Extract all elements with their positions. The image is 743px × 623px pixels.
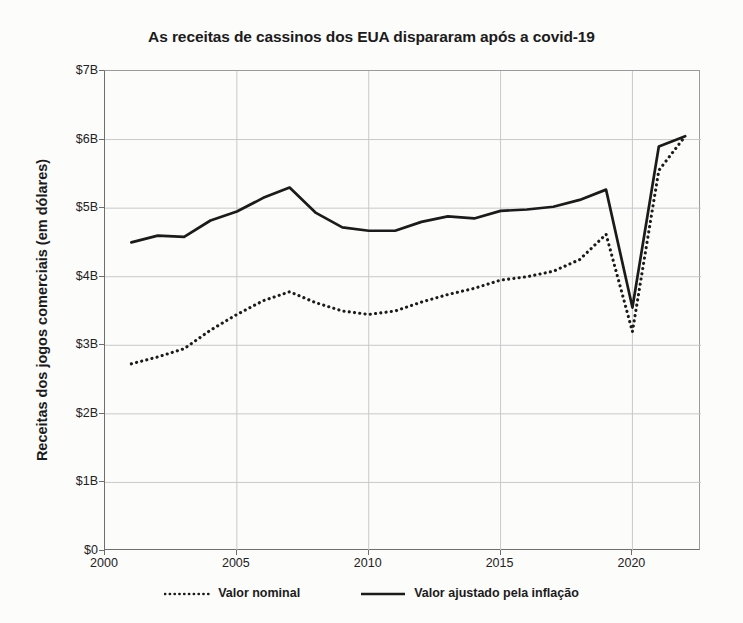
x-tick-label: 2005: [222, 556, 250, 570]
y-axis-tick: [99, 70, 104, 71]
x-axis-tick: [368, 550, 369, 555]
y-axis-tick: [99, 413, 104, 414]
y-tick-label: $2B: [52, 406, 98, 420]
x-tick-label: 2010: [354, 556, 382, 570]
legend-dotted-line-icon: [164, 588, 210, 598]
x-tick-label: 2000: [90, 556, 118, 570]
chart-page: As receitas de cassinos dos EUA disparar…: [0, 0, 743, 623]
x-axis-tick: [500, 550, 501, 555]
chart-legend: Valor nominal Valor ajustado pela inflaç…: [0, 586, 743, 600]
series-line: [131, 136, 685, 364]
x-axis-tick: [104, 550, 105, 555]
data-series-lines: [131, 136, 685, 364]
y-axis-tick: [99, 207, 104, 208]
chart-title: As receitas de cassinos dos EUA disparar…: [0, 28, 743, 46]
y-tick-label: $6B: [52, 132, 98, 146]
grid-lines: [105, 71, 701, 551]
y-tick-label: $3B: [52, 337, 98, 351]
chart-svg: [105, 71, 701, 551]
y-tick-label: $0: [52, 543, 98, 557]
y-tick-label: $7B: [52, 63, 98, 77]
legend-solid-line-icon: [360, 588, 406, 598]
y-tick-label: $4B: [52, 269, 98, 283]
x-axis-tick: [631, 550, 632, 555]
y-axis-tick: [99, 276, 104, 277]
x-tick-label: 2020: [618, 556, 646, 570]
y-axis-tick-labels: $0$1B$2B$3B$4B$5B$6B$7B: [48, 0, 98, 623]
legend-item-nominal[interactable]: Valor nominal: [164, 586, 300, 600]
y-tick-label: $5B: [52, 200, 98, 214]
legend-item-inflation-adjusted[interactable]: Valor ajustado pela inflação: [360, 586, 579, 600]
plot-area: [104, 70, 700, 550]
y-axis-tick: [99, 481, 104, 482]
x-tick-label: 2015: [486, 556, 514, 570]
x-axis-tick: [236, 550, 237, 555]
legend-label-nominal: Valor nominal: [218, 586, 300, 600]
y-axis-tick: [99, 344, 104, 345]
y-axis-tick: [99, 139, 104, 140]
legend-label-inflation-adjusted: Valor ajustado pela inflação: [414, 586, 579, 600]
series-line: [131, 136, 685, 307]
y-tick-label: $1B: [52, 474, 98, 488]
